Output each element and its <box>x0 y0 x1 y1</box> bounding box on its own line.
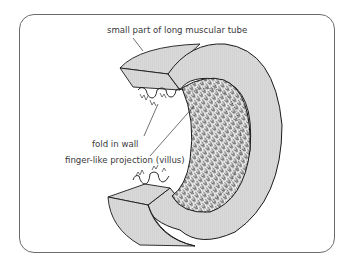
fold-bottom <box>133 165 169 184</box>
label-villus: finger-like projection (villus) <box>65 155 185 165</box>
label-tube: small part of long muscular tube <box>107 25 247 35</box>
intestine-diagram: small part of long muscular tube fold in… <box>0 0 351 266</box>
leader-line-tube <box>133 38 143 51</box>
leader-line-fold <box>144 104 158 136</box>
label-fold: fold in wall <box>92 139 139 149</box>
fold-top <box>138 88 183 107</box>
leader-line-villus <box>150 106 194 156</box>
